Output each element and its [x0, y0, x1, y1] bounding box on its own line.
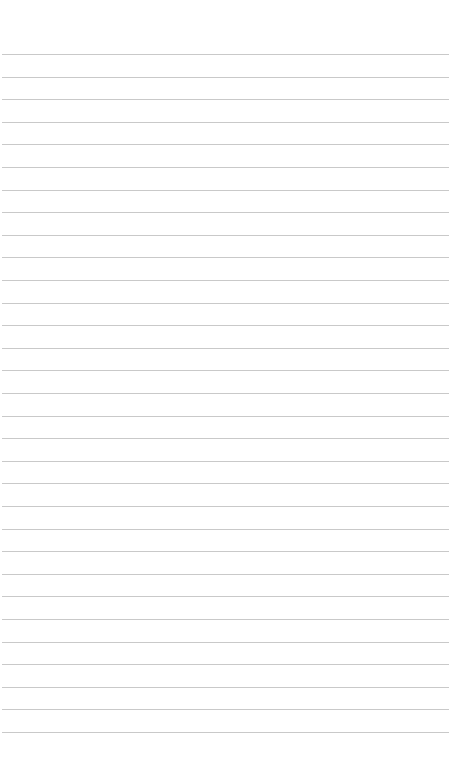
- ruled-line: [2, 687, 449, 688]
- ruled-line: [2, 235, 449, 236]
- ruled-line: [2, 416, 449, 417]
- ruled-line: [2, 438, 449, 439]
- ruled-line: [2, 619, 449, 620]
- ruled-line: [2, 709, 449, 710]
- ruled-line: [2, 596, 449, 597]
- ruled-line: [2, 461, 449, 462]
- ruled-line: [2, 506, 449, 507]
- ruled-line: [2, 483, 449, 484]
- ruled-line: [2, 529, 449, 530]
- lined-paper-page: [0, 0, 451, 781]
- ruled-line: [2, 167, 449, 168]
- ruled-line: [2, 54, 449, 55]
- ruled-line: [2, 551, 449, 552]
- ruled-line: [2, 393, 449, 394]
- ruled-line: [2, 303, 449, 304]
- ruled-line: [2, 77, 449, 78]
- ruled-line: [2, 325, 449, 326]
- ruled-line: [2, 190, 449, 191]
- ruled-line: [2, 99, 449, 100]
- ruled-line: [2, 664, 449, 665]
- ruled-line: [2, 370, 449, 371]
- ruled-line: [2, 144, 449, 145]
- ruled-line: [2, 642, 449, 643]
- ruled-line: [2, 732, 449, 733]
- ruled-line: [2, 122, 449, 123]
- ruled-line: [2, 574, 449, 575]
- ruled-line: [2, 257, 449, 258]
- ruled-line: [2, 348, 449, 349]
- ruled-line: [2, 212, 449, 213]
- ruled-line: [2, 280, 449, 281]
